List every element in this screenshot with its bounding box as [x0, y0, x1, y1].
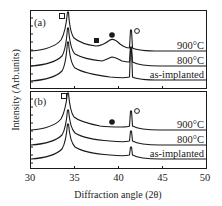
label-b-900C: 900°C: [177, 119, 204, 130]
panel-a-label: (a): [34, 17, 46, 29]
label-b-800C: 800°C: [177, 134, 204, 145]
x-axis-title: Diffraction angle (2θ): [74, 189, 161, 201]
filled-square-marker-a: [94, 38, 99, 43]
y-axis-title: Intensity (Arb.units): [10, 49, 22, 131]
x-tick-50: 50: [200, 172, 211, 183]
label-a-800C: 800°C: [177, 55, 204, 66]
open-square-marker-a: [60, 14, 65, 19]
x-tick-30: 30: [25, 172, 36, 183]
open-square-marker-b: [62, 94, 67, 99]
panel-b-label: (b): [34, 96, 47, 108]
x-tick-40: 40: [113, 172, 124, 183]
xrd-chart: (a) (b) 900°C 800°C as-implanted 900°C 8…: [0, 0, 222, 206]
open-circle-marker-a: [135, 29, 140, 34]
label-a-as-implanted: as-implanted: [150, 69, 205, 80]
label-a-900C: 900°C: [177, 40, 204, 51]
open-circle-marker-b: [135, 109, 140, 114]
x-tick-45: 45: [157, 172, 168, 183]
x-tick-35: 35: [69, 172, 80, 183]
filled-circle-marker-b: [109, 119, 115, 125]
label-b-as-implanted: as-implanted: [150, 148, 205, 159]
filled-circle-marker-a: [109, 32, 115, 38]
